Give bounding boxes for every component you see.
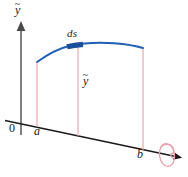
b-label: b [137,148,143,160]
origin-label: 0 [9,122,15,134]
surface-of-revolution-figure: ~ y ~ y ds 0 a b [0,0,188,177]
ordinate-lines [37,45,143,150]
y-axis-label-accent: ~ [15,0,20,9]
x-axis-line [5,121,178,158]
figure-canvas [0,0,188,177]
y-axis-label: ~ y [15,4,20,16]
curve [37,43,143,62]
y-mid-label-accent: ~ [83,70,88,80]
a-label: a [34,125,40,137]
y-mid-label: ~ y [83,75,88,87]
ds-segment [67,44,83,47]
x-axis [5,121,178,158]
ds-label: ds [67,28,77,39]
ds-segment-path [67,44,83,47]
curve-path [37,43,143,62]
